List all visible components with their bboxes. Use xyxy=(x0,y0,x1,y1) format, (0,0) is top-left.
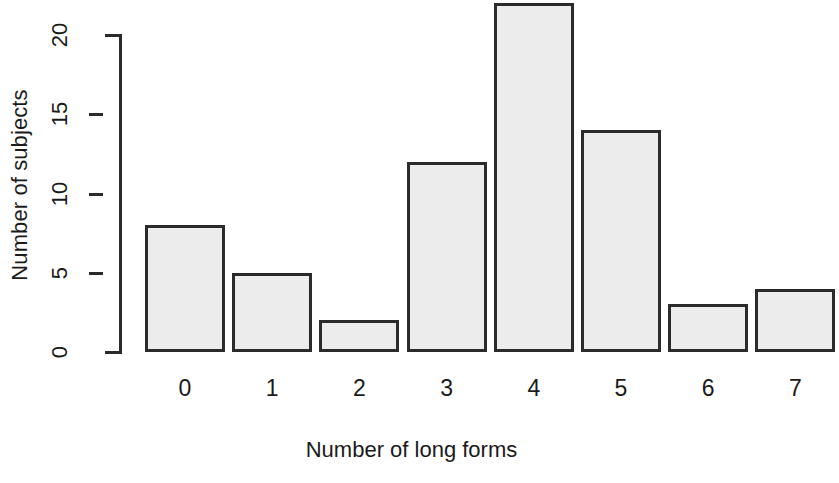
x-axis-tick-label: 1 xyxy=(227,372,317,404)
x-axis-title: Number of long forms xyxy=(0,437,823,463)
x-axis-tick-label: 2 xyxy=(314,372,404,404)
x-axis-tick-label: 6 xyxy=(663,372,753,404)
x-axis-tick-label: 3 xyxy=(402,372,492,404)
plot-area xyxy=(0,0,823,354)
x-axis-title-text: Number of long forms xyxy=(306,437,518,462)
bar xyxy=(755,289,835,352)
x-axis-tick-label: 5 xyxy=(576,372,666,404)
x-axis-tick-label: 7 xyxy=(750,372,839,404)
bar xyxy=(145,225,225,352)
bar xyxy=(319,320,399,352)
bar xyxy=(407,162,487,352)
x-axis-tick-label: 0 xyxy=(140,372,230,404)
x-axis-tick-labels: 01234567 xyxy=(0,372,823,408)
bar xyxy=(581,130,661,352)
bar xyxy=(668,304,748,352)
bar xyxy=(232,273,312,352)
bar xyxy=(494,3,574,352)
x-axis-tick-label: 4 xyxy=(489,372,579,404)
